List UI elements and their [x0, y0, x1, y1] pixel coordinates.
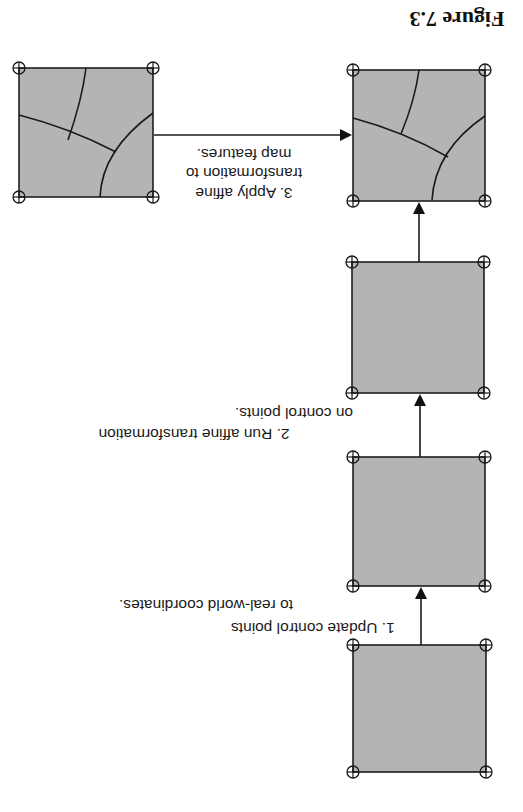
- step-1-label: to real-world coordinates. 1. Update con…: [119, 597, 395, 637]
- control-point-icon: [347, 766, 359, 778]
- control-point-icon: [346, 256, 358, 268]
- arrow-step-1: [415, 587, 427, 645]
- arrow-step-3: [413, 202, 425, 262]
- control-point-icon: [347, 195, 359, 207]
- control-point-icon: [479, 195, 491, 207]
- arrowhead-up-icon: [414, 394, 426, 406]
- control-point-icon: [13, 191, 25, 203]
- control-point-icon: [479, 64, 491, 76]
- arrow-step-2: [414, 394, 426, 457]
- control-point-icon: [347, 580, 359, 592]
- svg-text:on control points.: on control points.: [235, 405, 353, 422]
- svg-text:3. Apply affine: 3. Apply affine: [195, 185, 292, 202]
- svg-text:transformation to: transformation to: [186, 165, 302, 182]
- control-point-icon: [479, 580, 491, 592]
- control-point-icon: [480, 639, 492, 651]
- figure-title: Figure 7.3: [410, 7, 505, 32]
- figure-canvas: Figure 7.3 map features. transformation …: [0, 0, 523, 812]
- control-point-icon: [147, 62, 159, 74]
- svg-text:1. Update control points: 1. Update control points: [231, 620, 395, 637]
- control-point-icon: [479, 451, 491, 463]
- step-3-label: map features. transformation to 3. Apply…: [186, 146, 302, 202]
- control-point-icon: [147, 191, 159, 203]
- control-point-icon: [480, 766, 492, 778]
- svg-text:map features.: map features.: [197, 146, 292, 163]
- control-point-icon: [478, 387, 490, 399]
- box-transformed-map: [347, 64, 491, 207]
- arrowhead-up-icon: [415, 587, 427, 599]
- control-point-icon: [346, 387, 358, 399]
- arrowhead-up-icon: [413, 202, 425, 214]
- svg-text:2. Run affine transformation: 2. Run affine transformation: [99, 426, 290, 443]
- control-point-icon: [347, 64, 359, 76]
- box-source-map: [13, 62, 159, 203]
- control-point-icon: [13, 62, 25, 74]
- svg-text:to real-world coordinates.: to real-world coordinates.: [119, 597, 293, 614]
- control-point-icon: [347, 451, 359, 463]
- arrowhead-right-icon: [340, 129, 352, 141]
- box-updated-control-points: [347, 451, 491, 592]
- arrow-apply-to-map: [154, 129, 352, 141]
- control-point-icon: [347, 639, 359, 651]
- step-2-label: on control points. 2. Run affine transfo…: [99, 405, 354, 443]
- box-transformed-control-points: [346, 256, 490, 399]
- box-initial: [347, 639, 492, 778]
- control-point-icon: [478, 256, 490, 268]
